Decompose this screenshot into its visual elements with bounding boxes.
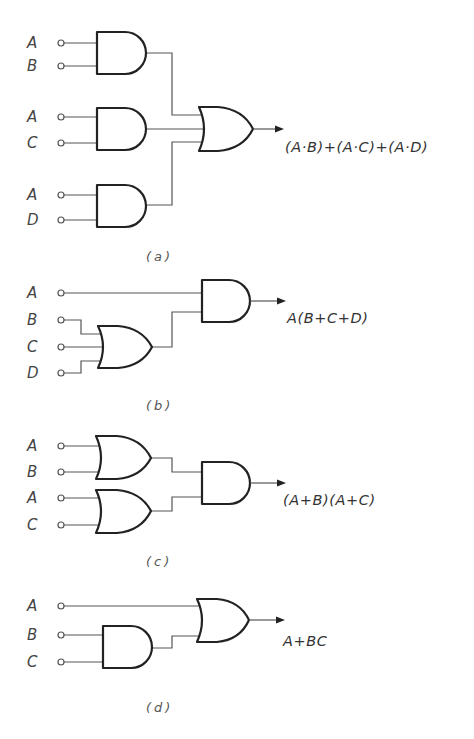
- input-label: B: [27, 463, 37, 481]
- and-gate: [97, 185, 146, 227]
- wire: [152, 312, 204, 347]
- output-arrow-icon: [277, 480, 286, 487]
- and-gate: [202, 280, 250, 322]
- input-label: A: [26, 186, 37, 204]
- wire: [146, 53, 204, 115]
- output-expression: (A·B)+(A·C)+(A·D): [285, 139, 428, 155]
- input-terminal: [58, 344, 64, 350]
- circuit-caption: (a): [146, 249, 173, 264]
- circuit-a: A B A C A D (A·B)+(A·C)+(A·D) (a): [26, 32, 428, 264]
- wire: [151, 458, 203, 472]
- input-terminal: [58, 632, 64, 638]
- input-terminal: [58, 290, 64, 296]
- input-terminal: [58, 522, 64, 528]
- circuit-caption: (c): [146, 554, 172, 569]
- input-terminal: [58, 370, 64, 376]
- circuit-d: A B C A+BC (d): [26, 597, 328, 715]
- input-label: D: [27, 364, 39, 382]
- input-label: B: [27, 311, 37, 329]
- circuit-c-input-wires: [64, 446, 101, 525]
- and-gate: [103, 626, 152, 668]
- input-label: C: [27, 653, 38, 671]
- or-gate: [96, 490, 151, 533]
- and-gate: [97, 32, 146, 74]
- output-arrow-icon: [276, 617, 285, 624]
- input-terminal: [58, 217, 64, 223]
- circuit-c: A B A C (A+B)(A+C) (c): [26, 436, 376, 569]
- input-label: A: [26, 597, 37, 615]
- circuit-a-input-wires: [64, 43, 97, 220]
- input-terminal: [58, 495, 64, 501]
- or-gate: [197, 599, 249, 642]
- input-terminal: [58, 63, 64, 69]
- output-arrow-icon: [275, 126, 284, 133]
- input-terminal: [58, 659, 64, 665]
- input-label: A: [26, 34, 37, 52]
- input-terminal: [58, 443, 64, 449]
- and-gate: [97, 108, 146, 150]
- output-arrow-icon: [277, 298, 286, 305]
- input-terminal: [58, 469, 64, 475]
- input-terminal: [58, 317, 64, 323]
- circuit-a-input-terminals: [58, 40, 64, 223]
- wire: [151, 497, 203, 511]
- input-label: B: [27, 57, 37, 75]
- or-gate: [96, 436, 151, 479]
- circuit-caption: (b): [146, 398, 173, 413]
- wire: [146, 142, 204, 205]
- output-expression: A+BC: [282, 633, 328, 649]
- logic-circuit-diagram: A B A C A D (A·B)+(A·C)+(A·D) (a): [0, 0, 474, 739]
- input-label: B: [27, 626, 37, 644]
- input-label: A: [26, 489, 37, 507]
- input-label: C: [27, 134, 38, 152]
- or-gate: [199, 107, 253, 151]
- input-label: A: [26, 437, 37, 455]
- input-label: C: [27, 338, 38, 356]
- input-terminal: [58, 192, 64, 198]
- input-terminal: [58, 140, 64, 146]
- output-expression: A(B+C+D): [286, 310, 369, 326]
- output-expression: (A+B)(A+C): [283, 492, 376, 508]
- and-gate: [202, 462, 250, 504]
- circuit-b: A B C D A(B+C+D) (b): [26, 280, 369, 413]
- input-terminal: [58, 40, 64, 46]
- input-terminal: [58, 603, 64, 609]
- input-label: C: [27, 516, 38, 534]
- circuit-caption: (d): [146, 700, 173, 715]
- input-label: A: [26, 284, 37, 302]
- or-gate: [98, 326, 152, 368]
- input-terminal: [58, 114, 64, 120]
- input-label: A: [26, 108, 37, 126]
- wire: [152, 636, 201, 648]
- input-label: D: [27, 211, 39, 229]
